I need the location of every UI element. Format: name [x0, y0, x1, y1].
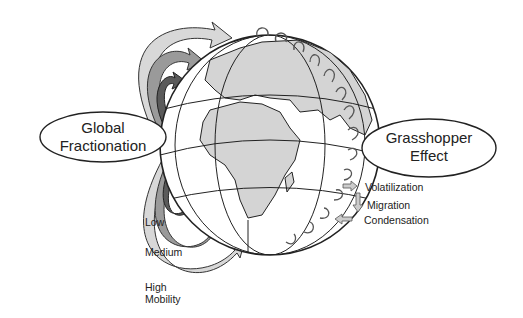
condensation-label: Condensation [364, 214, 429, 226]
volatilization-label: Volatilization [365, 181, 423, 193]
grasshopper-effect-line1: Grasshopper [370, 129, 488, 147]
global-fractionation-label: Global Fractionation [45, 119, 161, 155]
global-fractionation-line2: Fractionation [45, 137, 161, 155]
grasshopper-effect-line2: Effect [370, 147, 488, 165]
low-mobility-label: Low [145, 216, 164, 228]
grasshopper-effect-label: Grasshopper Effect [370, 129, 488, 165]
high-mobility-label-line2: Mobility [145, 293, 181, 305]
high-mobility-label-line1: High [145, 281, 167, 293]
medium-mobility-label: Medium [145, 246, 182, 258]
global-fractionation-line1: Global [45, 119, 161, 137]
migration-label: Migration [367, 199, 410, 211]
globe [160, 35, 380, 255]
